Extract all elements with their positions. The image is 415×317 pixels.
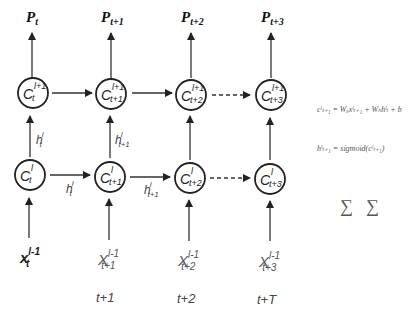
time-label-3: t+T xyxy=(257,293,276,306)
node-top-label-0: Cl+1t xyxy=(18,78,48,108)
output-label-1: Pt+1 xyxy=(101,10,124,27)
equation-cell-state: cˡₜ₊₁ = Wₓxˡₜ₊₁ + Wₕhˡₜ + b xyxy=(317,106,402,114)
input-label-2: Xl-1t+2 xyxy=(178,253,213,268)
time-label-1: t+1 xyxy=(96,291,114,304)
node-bottom-label-1: Clt+1 xyxy=(95,162,125,192)
vertical-h-label-0: hlt xyxy=(36,134,47,146)
node-bottom-label-3: Clt+3 xyxy=(255,164,285,194)
input-label-0: xl-1t xyxy=(20,250,43,265)
input-label-1: Xl-1t+1 xyxy=(98,252,133,267)
diagram-canvas: ∑ ∑ xyxy=(0,0,415,317)
output-label-2: Pt+2 xyxy=(181,10,204,27)
input-label-3: Xl-1t+3 xyxy=(259,254,294,269)
node-bottom-label-0: Clt xyxy=(15,160,45,190)
node-top-label-1: Cl+1t+1 xyxy=(96,79,126,109)
svg-text:∑: ∑ xyxy=(340,196,353,216)
node-top-label-3: Cl+1t+3 xyxy=(256,80,286,110)
node-bottom-label-2: Clt+2 xyxy=(175,163,205,193)
time-label-2: t+2 xyxy=(177,292,195,305)
svg-text:∑: ∑ xyxy=(366,196,379,216)
output-label-3: Pt+3 xyxy=(261,10,284,27)
equation-hidden-state: hˡₜ₊₁ = sigmoid(cˡₜ₊₁) xyxy=(317,145,384,153)
output-label-0: Pt xyxy=(26,10,38,27)
vertical-h-label-1: hlt+1 xyxy=(115,134,135,146)
horizontal-h-label-0: hlt xyxy=(66,183,77,195)
horizontal-h-label-1: hlt+1 xyxy=(144,184,164,196)
node-top-label-2: Cl+1t+2 xyxy=(176,80,206,110)
